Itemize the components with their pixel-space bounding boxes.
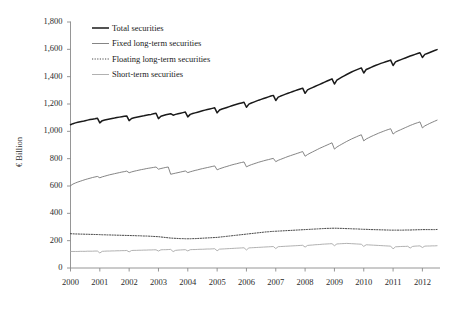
- chart-container: € Billion 02004006008001,0001,2001,4001,…: [0, 0, 461, 311]
- legend-label-0: Total securities: [112, 23, 164, 33]
- y-tick-label: 1,600: [23, 44, 63, 53]
- y-tick-label: 800: [23, 154, 63, 163]
- y-tick-label: 400: [23, 208, 63, 217]
- legend-label-1: Fixed long-term securities: [112, 38, 201, 48]
- y-tick-label: 600: [23, 181, 63, 190]
- x-tick-label: 2012: [402, 278, 442, 287]
- series-line-1: [71, 120, 438, 186]
- legend-label-3: Short-term securities: [112, 69, 183, 79]
- series-line-3: [71, 243, 438, 253]
- y-tick-label: 1,200: [23, 99, 63, 108]
- y-tick-label: 0: [23, 263, 63, 272]
- series-line-2: [71, 228, 438, 239]
- y-tick-label: 1,000: [23, 126, 63, 135]
- y-tick-label: 200: [23, 236, 63, 245]
- y-tick-label: 1,400: [23, 72, 63, 81]
- chart-plot-svg: [0, 0, 461, 311]
- y-tick-label: 1,800: [23, 17, 63, 26]
- legend-label-2: Floating long-term securities: [112, 54, 210, 64]
